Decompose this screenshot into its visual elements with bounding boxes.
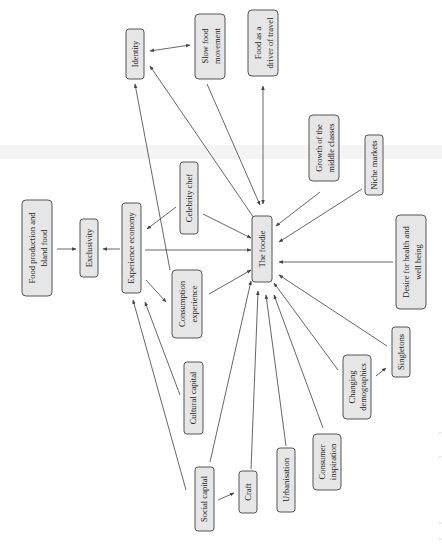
node-social-label: Social capital	[199, 475, 209, 522]
node-growth-middle-classes: Growth of the middle classes	[309, 115, 339, 181]
edge-growth-foodie	[276, 192, 320, 226]
node-slow-food-label-1: Slow food	[200, 28, 210, 64]
node-growth-label-1: Growth of the	[314, 124, 324, 172]
edge-urbanisation-foodie	[266, 295, 286, 446]
node-desire-health: Desire for health and well being	[396, 215, 426, 309]
node-celebrity-chef: Celebrity chef	[180, 162, 198, 234]
node-growth-label-2: middle classes	[326, 123, 336, 172]
edge-experience-consumption	[146, 280, 166, 302]
node-food-travel-label-2: driver of travel	[265, 17, 275, 69]
edge-consumption-foodie	[209, 270, 251, 294]
node-exclusivity-label: Exclusivity	[84, 228, 94, 267]
edge-celebrity-foodie	[203, 214, 251, 238]
node-food-production-label-2: bland food	[39, 229, 49, 266]
node-food-production-label-1: Food production and	[27, 212, 37, 284]
node-cultural-capital: Cultural capital	[184, 362, 203, 434]
node-cultural-label: Cultural capital	[188, 371, 198, 424]
node-consumption-label-1: Consumption	[177, 280, 187, 327]
node-celebrity-label: Celebrity chef	[184, 174, 194, 223]
node-singletons-label: Singletons	[396, 334, 406, 370]
edge-social-foodie	[210, 281, 251, 462]
node-changing-demographics: Changing demographics	[343, 355, 371, 419]
node-consumer-inspiration: Consumer inspiration	[313, 434, 341, 490]
node-food-travel-label-1: Food as a	[253, 26, 263, 59]
node-consumer-label-2: inspiration	[328, 443, 338, 480]
node-niche-label: Niche markets	[369, 140, 379, 189]
node-food-as-driver-of-travel: Food as a driver of travel	[248, 10, 278, 76]
node-urbanisation-label: Urbanisation	[281, 457, 291, 502]
node-exclusivity: Exclusivity	[80, 219, 98, 277]
node-the-foodie: The foodie	[252, 216, 272, 282]
node-craft-label: Craft	[243, 483, 253, 501]
node-social-capital: Social capital	[195, 467, 214, 531]
node-desire-label-1: Desire for health and	[401, 225, 411, 297]
edge-slowfood-foodie	[207, 84, 260, 205]
edge-social-craft	[218, 493, 234, 500]
edge-craft-foodie	[251, 291, 258, 469]
node-desire-label-2: well being	[413, 243, 423, 279]
edge-foodie-identity	[150, 66, 254, 218]
node-demo-label-2: demographics	[358, 363, 368, 411]
edge-demo-singletons	[376, 368, 386, 376]
node-consumption-experience: Consumption experience	[172, 270, 202, 338]
edge-demo-foodie	[274, 283, 338, 370]
node-foodie-label: The foodie	[257, 230, 267, 267]
node-urbanisation: Urbanisation	[277, 448, 295, 512]
node-food-production: Food production and bland food	[22, 200, 52, 296]
node-consumption-label-2: experience	[189, 285, 199, 322]
node-singletons: Singletons	[392, 327, 410, 377]
node-craft: Craft	[239, 471, 257, 513]
node-niche-markets: Niche markets	[365, 135, 383, 195]
node-demo-label-1: Changing	[347, 370, 357, 404]
node-identity: Identity	[126, 29, 144, 79]
foodie-concept-diagram: Identity Slow food movement Food as a dr…	[0, 0, 442, 546]
node-experience-label: Experience economy	[126, 212, 136, 284]
edge-niche-foodie	[279, 189, 362, 242]
edges	[57, 45, 393, 500]
node-experience-economy: Experience economy	[122, 203, 141, 293]
node-consumer-label-1: Consumer	[317, 444, 327, 479]
node-slow-food-label-2: movement	[212, 27, 222, 64]
node-slow-food-movement: Slow food movement	[195, 14, 225, 79]
node-identity-label: Identity	[130, 40, 140, 67]
edge-singletons-foodie	[279, 275, 387, 346]
edge-identity-slowfood	[150, 45, 190, 51]
